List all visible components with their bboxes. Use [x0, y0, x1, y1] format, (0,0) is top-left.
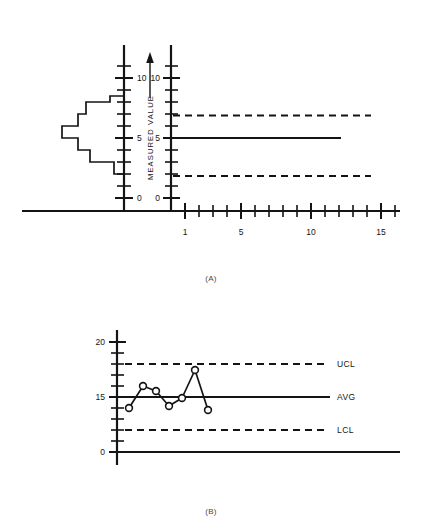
panel-a-y-label-0: 0: [155, 193, 160, 203]
data-point: [179, 395, 186, 402]
panel-b-y-label-15: 15: [96, 392, 106, 402]
panel-a-x-label-15: 15: [376, 227, 386, 237]
panel-b-avg-label: AVG: [337, 392, 356, 402]
figure-root: 0 5 10 MEASURED VALUE: [0, 0, 422, 529]
data-point: [126, 405, 133, 412]
histogram-outline: [62, 96, 124, 174]
panel-b-caption: (B): [205, 507, 217, 516]
control-chart-figure: 0 5 10 MEASURED VALUE: [0, 0, 422, 529]
panel-b-ucl-label: UCL: [337, 359, 355, 369]
panel-a-caption: (A): [205, 274, 217, 283]
histogram-y-label-10: 10: [137, 73, 147, 83]
data-point: [192, 367, 199, 374]
panel-a-x-label-1: 1: [183, 227, 188, 237]
measured-value-axis-title-group: MEASURED VALUE: [146, 52, 155, 180]
panel-a: 0 5 10 MEASURED VALUE: [22, 45, 400, 283]
panel-b-lcl-label: LCL: [337, 425, 354, 435]
histogram-y-label-0: 0: [137, 193, 142, 203]
panel-a-x-label-10: 10: [306, 227, 316, 237]
up-arrow-icon: [146, 52, 154, 63]
data-point: [205, 407, 212, 414]
panel-a-y-label-5: 5: [155, 133, 160, 143]
histogram-y-label-5: 5: [137, 133, 142, 143]
data-point: [166, 403, 173, 410]
panel-b: 0 15 20 UCL AVG LCL (B): [96, 330, 400, 516]
panel-a-x-label-5: 5: [239, 227, 244, 237]
data-point: [140, 383, 147, 390]
data-point: [153, 388, 160, 395]
panel-a-y-label-10: 10: [151, 73, 161, 83]
panel-b-data-points: [126, 367, 212, 414]
measured-value-axis-title: MEASURED VALUE: [146, 95, 155, 180]
panel-b-y-label-0: 0: [100, 447, 105, 457]
panel-b-y-label-20: 20: [96, 337, 106, 347]
